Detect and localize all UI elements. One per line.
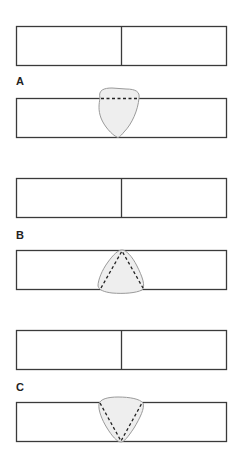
split-bar-c [17,331,227,370]
bar-with-fragment-c [17,397,227,442]
panel-label-c: C [16,382,24,393]
panel-label-b: B [16,230,24,241]
bar-with-fragment-a [17,88,227,138]
panel-label-a: A [16,76,24,87]
panel-b [17,179,227,294]
bar-with-fragment-b [17,250,227,293]
fragment-blob-c [99,397,144,442]
split-bar-b [17,179,227,218]
fragment-blob-b [98,250,144,293]
diagram-canvas [0,0,240,458]
fragment-blob-a [99,88,139,137]
split-bar-a [17,27,227,66]
panel-c [17,331,227,443]
panel-a [17,27,227,138]
